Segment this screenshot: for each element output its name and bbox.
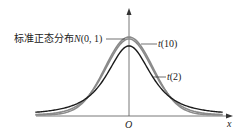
t2-label-args: (2) xyxy=(170,71,182,82)
n01-label-text: 标准正态分布 xyxy=(14,33,74,44)
t10-label: t(10) xyxy=(158,39,177,49)
y-axis-arrow-icon xyxy=(127,8,132,15)
x-axis-label: x xyxy=(227,119,231,129)
chart-canvas xyxy=(0,0,241,135)
n01-label-math: N xyxy=(74,33,81,44)
n01-label-args: (0, 1) xyxy=(81,33,103,44)
origin-label: O xyxy=(125,120,132,130)
t10-label-args: (10) xyxy=(161,38,178,49)
t2-label: t(2) xyxy=(167,72,181,82)
n01-label: 标准正态分布N(0, 1) xyxy=(14,34,102,44)
